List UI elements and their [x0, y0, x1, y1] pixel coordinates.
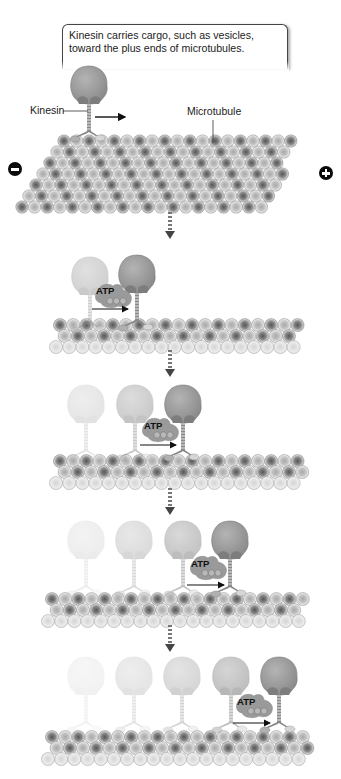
- atp-label-stage-4: ATP: [191, 558, 209, 569]
- microtubule-overview: [16, 135, 297, 214]
- kinesin-stage-1: [70, 66, 107, 142]
- caption-text: Kinesin carries cargo, such as vesicles,…: [69, 29, 285, 55]
- step-arrow-4: [165, 625, 175, 653]
- kinesin-stage-5: [67, 657, 297, 733]
- step-arrow-1: [165, 212, 175, 240]
- atp-label-stage-2: ATP: [96, 285, 114, 296]
- plus-end-icon: [319, 166, 333, 180]
- diagram-canvas: [0, 0, 341, 779]
- atp-label-stage-3: ATP: [144, 420, 162, 431]
- kinesin-stage-3: [67, 385, 201, 461]
- kinesin-stage-4: [67, 521, 248, 597]
- step-arrow-3: [165, 488, 175, 516]
- step-arrow-2: [165, 350, 175, 378]
- atp-label-stage-5: ATP: [237, 696, 255, 707]
- microtubule-label: Microtubule: [187, 105, 241, 117]
- minus-end-icon: [8, 162, 22, 176]
- kinesin-label: Kinesin: [30, 104, 64, 116]
